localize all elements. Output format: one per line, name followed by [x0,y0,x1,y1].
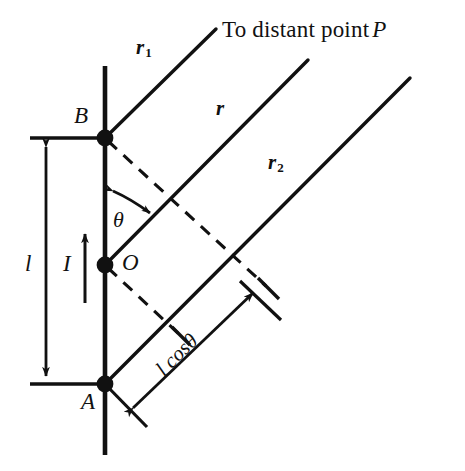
title-point-label: P [369,17,386,42]
angle-label-theta: θ [113,209,124,231]
ray-label-r2-base: r [268,150,276,174]
diagram-svg [0,0,465,471]
dashed-perpendicular-from-o [108,268,180,335]
figure-canvas: To distant pointP r1 r r2 B O A l I θ l … [0,0,465,471]
ray-r1 [105,29,216,138]
current-label: I [63,252,71,275]
perpendicular-tick-upper [258,278,279,299]
point-marker-a [97,376,114,393]
point-marker-o [97,257,114,274]
ray-label-r1-subscript: 1 [144,45,152,60]
ray-label-r-base: r [216,96,224,120]
length-label: l [25,252,31,275]
ray-label-r2: r2 [268,152,284,174]
point-marker-b [97,130,114,147]
ray-r2 [105,78,410,384]
ray-label-r1: r1 [136,37,152,59]
point-label-a: A [81,390,95,413]
ray-label-r1-base: r [136,35,144,59]
point-label-o: O [122,251,139,274]
point-label-b: B [74,104,88,127]
ray-label-r: r [216,98,224,119]
title-to-distant-point: To distant pointP [222,18,387,41]
title-prefix: To distant point [222,17,369,42]
ray-label-r2-subscript: 2 [276,160,284,175]
